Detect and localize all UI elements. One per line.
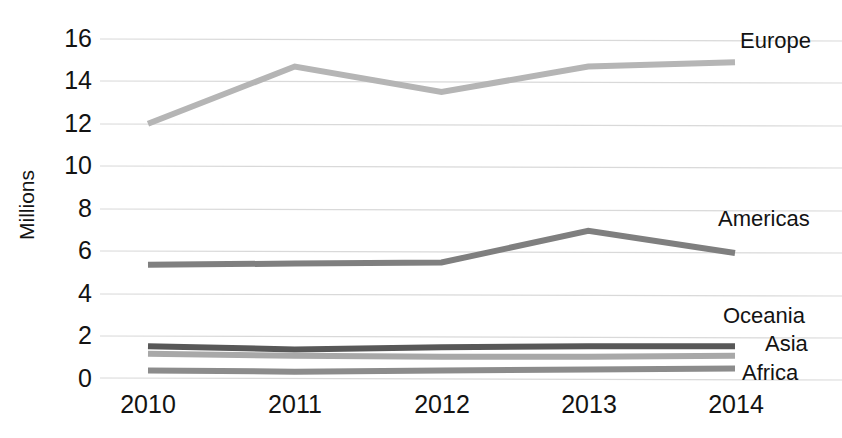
x-tick-2014: 2014 [681, 392, 791, 417]
series-label-oceania: Oceania [723, 305, 805, 327]
line-chart: Millions 16 14 12 10 8 6 4 2 0 2010 2011… [0, 0, 842, 438]
series-label-americas: Americas [718, 208, 810, 230]
data-series-lines [148, 62, 735, 371]
series-label-africa: Africa [742, 362, 798, 384]
series-line-africa [148, 368, 735, 371]
x-tick-2011: 2011 [240, 392, 350, 417]
x-tick-2010: 2010 [93, 392, 203, 417]
series-label-asia: Asia [765, 333, 808, 355]
series-line-americas [148, 231, 735, 265]
x-tick-2012: 2012 [387, 392, 497, 417]
plot-area [0, 0, 842, 438]
x-tick-2013: 2013 [534, 392, 644, 417]
series-line-europe [148, 62, 735, 123]
series-label-europe: Europe [740, 30, 811, 52]
series-line-oceania [148, 354, 735, 357]
series-line-asia [148, 346, 735, 349]
